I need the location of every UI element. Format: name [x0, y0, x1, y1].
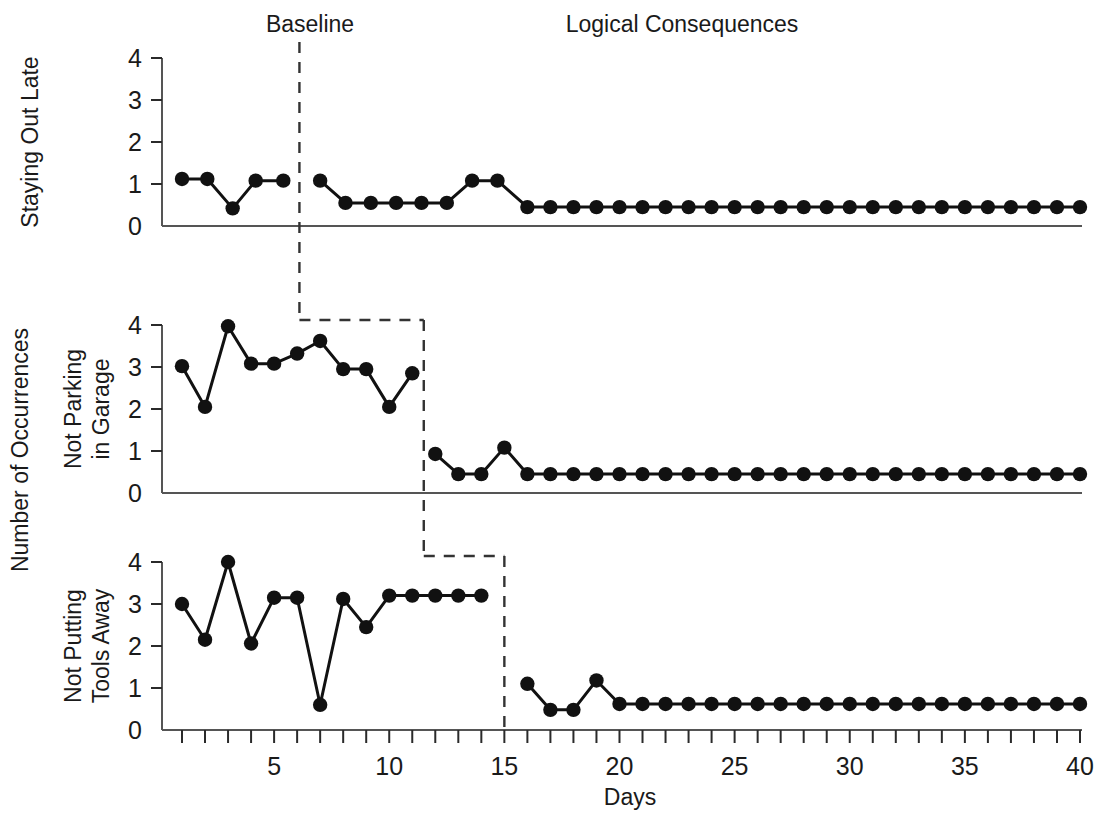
y-tick-label: 3	[128, 353, 142, 381]
y-tick-label: 0	[128, 479, 142, 507]
data-point	[267, 356, 281, 370]
data-point	[1027, 200, 1041, 214]
data-point	[244, 636, 258, 650]
data-point	[313, 698, 327, 712]
data-point	[866, 200, 880, 214]
y-tick-label: 2	[128, 128, 142, 156]
data-point	[336, 592, 350, 606]
data-point	[773, 697, 787, 711]
data-point	[566, 467, 580, 481]
panel-y-axis-label: Not Putting	[60, 589, 86, 703]
data-point	[796, 200, 810, 214]
x-tick-label: 25	[721, 752, 749, 780]
phase-label-intervention: Logical Consequences	[566, 11, 799, 37]
data-point	[866, 697, 880, 711]
data-point	[820, 200, 834, 214]
data-point	[520, 677, 534, 691]
y-tick-label: 0	[128, 716, 142, 744]
data-point	[796, 697, 810, 711]
data-point	[750, 467, 764, 481]
data-point	[589, 467, 603, 481]
data-point	[405, 588, 419, 602]
data-point	[727, 467, 741, 481]
x-tick-label: 30	[836, 752, 864, 780]
panel-y-axis-label: Not Parking	[60, 349, 86, 469]
data-point	[465, 173, 479, 187]
y-tick-label: 1	[128, 170, 142, 198]
data-point	[520, 200, 534, 214]
data-point	[520, 467, 534, 481]
data-point	[313, 334, 327, 348]
data-point	[935, 200, 949, 214]
data-point	[889, 467, 903, 481]
data-point	[981, 467, 995, 481]
data-point	[1004, 467, 1018, 481]
data-point	[866, 467, 880, 481]
data-point	[843, 200, 857, 214]
multiple-baseline-chart: Baseline Logical Consequences Number of …	[0, 0, 1110, 829]
data-point	[543, 467, 557, 481]
x-tick-label: 35	[951, 752, 979, 780]
data-point	[175, 172, 189, 186]
panel-2: 01234Not Parkingin Garage	[60, 311, 1087, 507]
data-point	[843, 467, 857, 481]
data-point	[175, 597, 189, 611]
y-tick-label: 1	[128, 437, 142, 465]
phase-label-baseline: Baseline	[266, 11, 354, 37]
data-point	[635, 697, 649, 711]
x-tick-label: 40	[1066, 752, 1094, 780]
panel-y-axis-label: Staying Out Late	[17, 56, 43, 227]
data-point	[750, 697, 764, 711]
data-point	[221, 555, 235, 569]
y-tick-label: 4	[128, 548, 142, 576]
data-point	[981, 697, 995, 711]
data-point	[958, 200, 972, 214]
data-point	[704, 467, 718, 481]
data-point	[338, 196, 352, 210]
data-point	[612, 200, 626, 214]
panel-3: 01234Not PuttingTools Away51015202530354…	[60, 548, 1094, 780]
data-point	[681, 200, 695, 214]
data-point	[428, 588, 442, 602]
data-point	[981, 200, 995, 214]
data-point	[796, 467, 810, 481]
panel-y-axis-label: in Garage	[88, 358, 114, 459]
data-point	[474, 467, 488, 481]
data-point	[221, 319, 235, 333]
data-point	[1004, 697, 1018, 711]
data-point	[1050, 467, 1064, 481]
x-tick-label: 5	[267, 752, 281, 780]
data-point	[474, 588, 488, 602]
data-point	[1073, 200, 1087, 214]
data-point	[359, 620, 373, 634]
data-point	[313, 173, 327, 187]
data-point	[704, 200, 718, 214]
data-point	[1073, 467, 1087, 481]
data-point	[1050, 697, 1064, 711]
data-point	[382, 400, 396, 414]
data-point	[935, 697, 949, 711]
data-point	[248, 173, 262, 187]
data-point	[382, 588, 396, 602]
data-point	[912, 200, 926, 214]
data-point	[935, 467, 949, 481]
data-point	[267, 591, 281, 605]
y-tick-label: 2	[128, 395, 142, 423]
data-point	[843, 697, 857, 711]
data-point	[727, 200, 741, 214]
data-point	[958, 467, 972, 481]
panels-group: 01234Staying Out Late01234Not Parkingin …	[17, 42, 1094, 780]
data-point	[773, 467, 787, 481]
data-point	[244, 356, 258, 370]
data-point	[635, 467, 649, 481]
chart-svg: Baseline Logical Consequences Number of …	[0, 0, 1110, 829]
data-point	[497, 440, 511, 454]
data-point	[200, 172, 214, 186]
data-point	[440, 196, 454, 210]
data-point	[225, 201, 239, 215]
data-point	[820, 467, 834, 481]
data-point	[364, 196, 378, 210]
data-point	[773, 200, 787, 214]
data-point	[290, 346, 304, 360]
data-point	[658, 200, 672, 214]
